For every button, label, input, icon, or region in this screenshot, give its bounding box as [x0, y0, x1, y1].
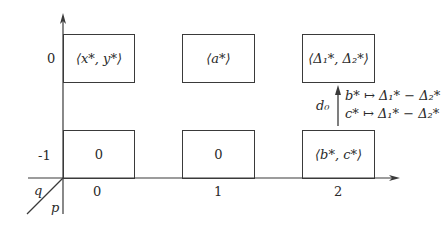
- cell-label: ⟨a*⟩: [206, 51, 230, 66]
- cell-r0-c2: ⟨Δ₁*, Δ₂*⟩: [302, 34, 375, 83]
- row-label-0: 0: [47, 52, 55, 65]
- cell-r1-c2: ⟨b*, c*⟩: [302, 130, 375, 179]
- col-label-1: 1: [214, 185, 222, 198]
- cell-r0-c1: ⟨a*⟩: [182, 34, 255, 83]
- cell-r0-c0: ⟨x*, y*⟩: [63, 34, 135, 83]
- differential-map-b: b* ↦ Δ₁* − Δ₂*: [345, 89, 440, 102]
- cell-label: ⟨x*, y*⟩: [76, 51, 122, 66]
- differential-label: d₀: [316, 99, 330, 112]
- differential-map-c: c* ↦ Δ₁* − Δ₂*: [345, 107, 439, 120]
- row-label-minus-1: -1: [38, 149, 51, 162]
- col-label-2: 2: [334, 185, 342, 198]
- cell-label: 0: [95, 147, 103, 162]
- cell-label: 0: [214, 147, 222, 162]
- cell-r1-c0: 0: [63, 130, 135, 179]
- col-label-0: 0: [93, 185, 101, 198]
- cell-label: ⟨Δ₁*, Δ₂*⟩: [308, 51, 369, 66]
- cell-r1-c1: 0: [182, 130, 255, 179]
- cell-label: ⟨b*, c*⟩: [315, 147, 362, 162]
- axis-label-q: q: [34, 184, 42, 197]
- axis-label-p: p: [51, 201, 59, 214]
- differential-arrow-icon: [335, 85, 341, 95]
